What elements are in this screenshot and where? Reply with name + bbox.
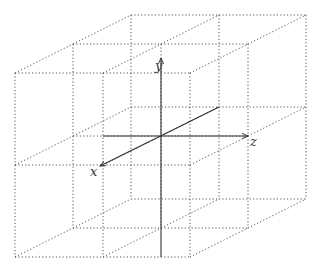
grid-line [103, 228, 161, 257]
grid-line [190, 228, 248, 257]
grid-line [15, 228, 73, 257]
grid-line [73, 199, 131, 228]
grid-line [73, 107, 131, 136]
coordinate-axes [100, 58, 248, 257]
y-axis-label: y [154, 58, 163, 73]
grid-line [190, 136, 248, 165]
grid-line [15, 44, 73, 73]
grid-line [73, 15, 131, 44]
grid-line [15, 136, 73, 165]
x-axis-label: x [90, 164, 98, 179]
cube-grid-diagram: y z x [0, 0, 325, 262]
z-axis-label: z [249, 134, 257, 149]
grid-line [190, 44, 248, 73]
grid-line [161, 15, 219, 44]
grid-line [248, 199, 306, 228]
grid-line [103, 44, 161, 73]
grid-line [248, 15, 306, 44]
grid-line [248, 107, 306, 136]
